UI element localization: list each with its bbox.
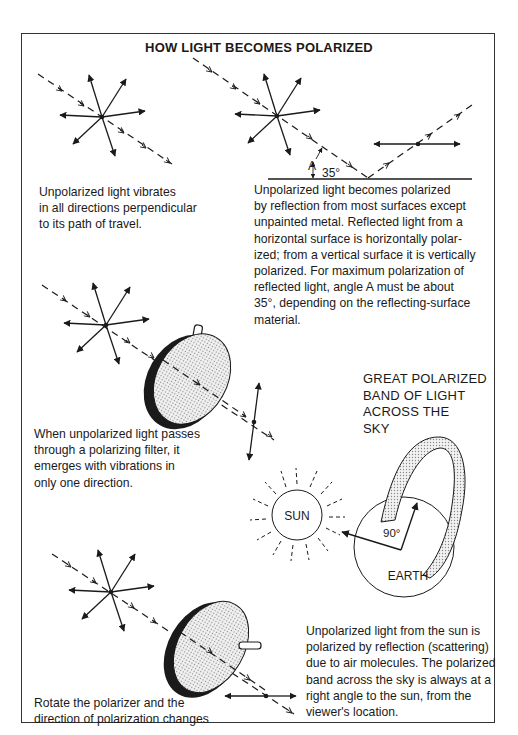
earth-label: EARTH xyxy=(388,569,428,583)
unpolarized-light-diagram xyxy=(38,74,172,164)
sun-label: SUN xyxy=(284,509,309,523)
caption-rotate: Rotate the polarizer and the direction o… xyxy=(34,695,209,727)
caption-reflection: Unpolarized light becomes polarized by r… xyxy=(254,182,475,328)
rotated-polarizer-diagram xyxy=(52,550,296,714)
sky-band-label: GREAT POLARIZED BAND OF LIGHT ACROSS THE… xyxy=(363,371,487,437)
caption-filter: When unpolarized light passes through a … xyxy=(34,426,200,491)
caption-unpolarized: Unpolarized light vibrates in all direct… xyxy=(39,184,197,233)
right-angle-label: 90° xyxy=(383,527,400,539)
reflection-diagram: A 35° xyxy=(193,58,472,180)
angle-a-label: A xyxy=(308,159,316,173)
sky-polarization-diagram: SUN 90° EARTH xyxy=(250,437,465,597)
angle-value-label: 35° xyxy=(322,166,340,180)
caption-sky: Unpolarized light from the sun is polari… xyxy=(306,623,495,720)
